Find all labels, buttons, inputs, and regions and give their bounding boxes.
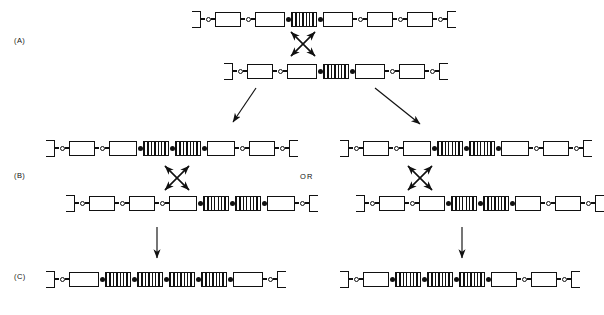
repeat-unit-hatched-box <box>469 141 495 156</box>
flanking-segment-box <box>69 272 99 287</box>
flanking-segment-box <box>255 12 285 27</box>
chromatid-a2 <box>224 60 448 82</box>
junction-open-circle <box>354 146 359 151</box>
connector-line <box>75 202 79 203</box>
junction-filled-dot <box>478 201 483 206</box>
chromosome-terminus-left <box>66 195 75 212</box>
repeat-unit-hatched-box <box>395 272 421 287</box>
junction-open-circle <box>562 277 567 282</box>
repeat-unit-hatched-box <box>175 141 201 156</box>
junction-filled-dot <box>510 201 515 206</box>
repeat-unit-hatched-box <box>483 196 509 211</box>
junction-open-circle <box>300 201 305 206</box>
repeat-unit-hatched-box <box>203 196 229 211</box>
chromosome-terminus-left <box>340 271 349 288</box>
flanking-segment-box <box>323 12 353 27</box>
repeat-unit-hatched-box <box>323 64 349 79</box>
connector-line <box>541 202 545 203</box>
connector-line <box>295 202 299 203</box>
junction-filled-dot <box>464 146 469 151</box>
repeat-unit-hatched-box <box>427 272 453 287</box>
connector-line <box>349 147 353 148</box>
junction-filled-dot <box>446 201 451 206</box>
junction-open-circle <box>206 17 211 22</box>
junction-filled-dot <box>496 146 501 151</box>
connector-line <box>95 147 99 148</box>
repeat-unit-hatched-box <box>105 272 131 287</box>
junction-filled-dot <box>422 277 427 282</box>
junction-filled-dot <box>230 201 235 206</box>
junction-filled-dot <box>138 146 143 151</box>
chromatid-a1 <box>192 8 456 30</box>
flanking-segment-box <box>267 196 295 211</box>
junction-filled-dot <box>318 17 323 22</box>
flanking-segment-box <box>89 196 115 211</box>
flanking-segment-box <box>129 196 155 211</box>
crossover-x-panel-a-stroke-1 <box>291 32 315 56</box>
flanking-segment-box <box>363 272 389 287</box>
flanking-segment-box <box>355 64 385 79</box>
flanking-segment-box <box>233 272 263 287</box>
repeat-unit-hatched-box <box>235 196 261 211</box>
junction-filled-dot <box>350 69 355 74</box>
crossover-x-panel-b-left-stroke-3 <box>165 166 189 190</box>
crossover-x-panel-a-stroke-3 <box>291 32 315 56</box>
junction-open-circle <box>410 201 415 206</box>
crossover-x-panel-b-left-stroke-1 <box>165 166 189 190</box>
flanking-segment-box <box>247 64 273 79</box>
chromosome-terminus-right <box>439 63 448 80</box>
repeat-unit-hatched-box <box>143 141 169 156</box>
flanking-segment-box <box>419 196 445 211</box>
repeat-unit-hatched-box <box>451 196 477 211</box>
connector-line <box>517 278 521 279</box>
flanking-segment-box <box>169 196 197 211</box>
junction-open-circle <box>546 201 551 206</box>
or-label: OR <box>300 172 314 181</box>
flanking-segment-box <box>109 141 137 156</box>
connector-line <box>275 147 279 148</box>
connector-line <box>433 18 437 19</box>
flanking-segment-box <box>531 272 557 287</box>
junction-open-circle <box>268 277 273 282</box>
junction-filled-dot <box>486 277 491 282</box>
repeat-unit-hatched-box <box>291 12 317 27</box>
junction-open-circle <box>60 146 65 151</box>
crossover-x-panel-b-left-stroke-2 <box>165 166 189 190</box>
crossover-x-panel-a-stroke-4 <box>291 32 315 56</box>
connector-line <box>241 18 245 19</box>
chromosome-terminus-right <box>571 271 580 288</box>
junction-open-circle <box>240 146 245 151</box>
chromosome-terminus-left <box>340 140 349 157</box>
junction-filled-dot <box>262 201 267 206</box>
panel-label-a: (A) <box>14 36 25 45</box>
junction-filled-dot <box>170 146 175 151</box>
junction-filled-dot <box>286 17 291 22</box>
panel-label-c: (C) <box>14 272 26 281</box>
chromosome-terminus-left <box>356 195 365 212</box>
crossover-x-panel-b-right-stroke-2 <box>408 166 432 190</box>
chromatid-b-right-1 <box>340 137 592 159</box>
chromosome-terminus-right <box>583 140 592 157</box>
flanking-segment-box <box>555 196 581 211</box>
chromosome-terminus-left <box>46 140 55 157</box>
chromosome-terminus-left <box>46 271 55 288</box>
flanking-segment-box <box>399 64 425 79</box>
flanking-segment-box <box>543 141 569 156</box>
flanking-segment-box <box>363 141 389 156</box>
connector-line <box>115 202 119 203</box>
junction-open-circle <box>60 277 65 282</box>
flanking-segment-box <box>491 272 517 287</box>
repeat-unit-hatched-box <box>169 272 195 287</box>
connector-line <box>155 202 159 203</box>
junction-open-circle <box>394 146 399 151</box>
connector-line <box>353 18 357 19</box>
connector-line <box>233 70 237 71</box>
flanking-segment-box <box>249 141 275 156</box>
crossover-x-panel-a-stroke-2 <box>291 32 315 56</box>
chromosome-terminus-right <box>289 140 298 157</box>
connector-line <box>263 278 267 279</box>
junction-filled-dot <box>390 277 395 282</box>
junction-open-circle <box>238 69 243 74</box>
flanking-segment-box <box>379 196 405 211</box>
connector-line <box>273 70 277 71</box>
